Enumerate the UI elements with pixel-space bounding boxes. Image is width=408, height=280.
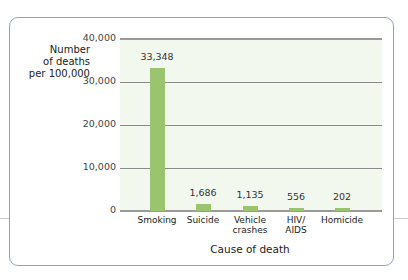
category-label: Smoking [132,215,182,225]
category-label: Suicide [178,215,228,225]
ytick-40000: 40,000 [83,32,116,43]
x-axis-label: Cause of death [170,243,330,255]
bar-0 [150,68,165,211]
value-label: 1,135 [225,189,275,200]
y-axis-label-line: of deaths [20,56,90,68]
category-label: Vehiclecrashes [225,215,275,235]
ytick-20000: 20,000 [83,118,116,129]
value-label: 1,686 [178,187,228,198]
value-label: 33,348 [132,51,182,62]
y-axis-label-line: per 100,000 [20,68,90,80]
value-label: 202 [317,191,367,202]
value-label: 556 [271,191,321,202]
category-label: HIV/AIDS [271,215,321,235]
bar-1 [196,204,211,211]
y-axis-label-line: Number [20,44,90,56]
ytick-10000: 10,000 [83,161,116,172]
category-label: Homicide [317,215,367,225]
bar-2 [243,206,258,211]
ytick-0: 0 [110,204,116,215]
y-axis-label: Number of deaths per 100,000 [20,44,90,80]
bar-3 [289,208,304,211]
bar-4 [335,208,350,211]
